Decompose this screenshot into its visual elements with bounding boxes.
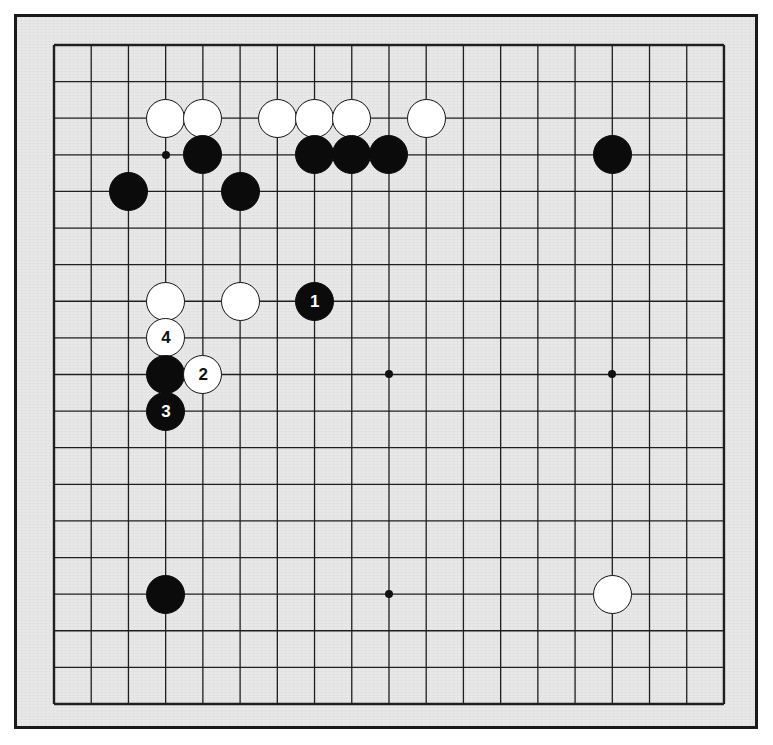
stone-black[interactable] bbox=[146, 575, 185, 614]
stone-move-number: 3 bbox=[161, 403, 170, 420]
stone-white[interactable] bbox=[332, 99, 371, 138]
stone-white[interactable] bbox=[593, 575, 632, 614]
numbered-stone-black[interactable]: 3 bbox=[146, 392, 185, 431]
go-diagram-page: 1423 bbox=[0, 0, 773, 745]
stone-move-number: 2 bbox=[198, 366, 207, 383]
stone-black[interactable] bbox=[146, 355, 185, 394]
stone-white[interactable] bbox=[407, 99, 446, 138]
stone-white[interactable] bbox=[146, 99, 185, 138]
stone-black[interactable] bbox=[221, 172, 260, 211]
stone-black[interactable] bbox=[593, 135, 632, 174]
go-board-grid bbox=[0, 0, 773, 745]
stone-white[interactable] bbox=[221, 282, 260, 321]
stone-white[interactable] bbox=[146, 282, 185, 321]
stone-move-number: 4 bbox=[161, 329, 170, 346]
stone-white[interactable] bbox=[295, 99, 334, 138]
stone-move-number: 1 bbox=[310, 293, 319, 310]
stone-white[interactable] bbox=[258, 99, 297, 138]
numbered-stone-black[interactable]: 1 bbox=[295, 282, 334, 321]
stone-white[interactable] bbox=[183, 99, 222, 138]
stone-black[interactable] bbox=[109, 172, 148, 211]
